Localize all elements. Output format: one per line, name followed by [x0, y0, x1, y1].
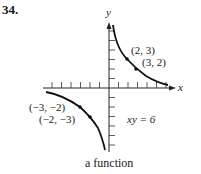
point-neg2-neg3 — [88, 115, 92, 119]
x-axis-arrow-icon — [169, 86, 176, 91]
equation-label: xy = 6 — [127, 113, 155, 125]
point-label-neg3-neg2: (−3, −2) — [29, 101, 65, 113]
point-3-2 — [134, 67, 138, 71]
caption: a function — [85, 156, 133, 171]
x-axis-label: x — [178, 81, 183, 93]
y-axis-arrow-icon — [107, 22, 112, 29]
point-neg3-neg2 — [78, 105, 82, 109]
point-label-2-3: (2, 3) — [131, 44, 155, 56]
point-2-3 — [125, 57, 129, 61]
point-label-3-2: (3, 2) — [142, 56, 166, 68]
y-axis-label: y — [106, 6, 111, 18]
point-label-neg2-neg3: (−2, −3) — [39, 113, 75, 125]
hyperbola-graph — [0, 0, 201, 174]
